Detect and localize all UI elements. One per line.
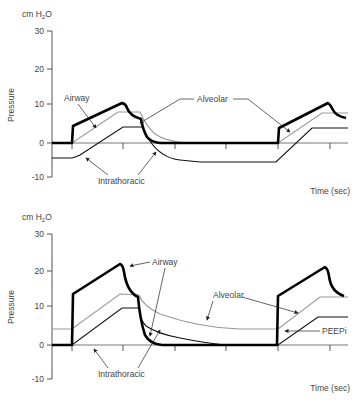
bottom-tick-neg10: -10 [32, 374, 45, 384]
top-label-airway: Airway [64, 93, 90, 103]
top-unit-label: cm H2O [22, 9, 52, 20]
bottom-x-axis-label: Time (sec) [310, 383, 350, 393]
bottom-label-peepi: PEEPi [322, 326, 347, 336]
bottom-label-intrathoracic: Intrathoracic [98, 369, 146, 379]
bottom-tick-20: 20 [35, 266, 45, 276]
top-chart: cm H2O Pressure 30 20 10 0 -10 Time (sec… [6, 9, 350, 196]
chart-canvas: cm H2O Pressure 30 20 10 0 -10 Time (sec… [0, 0, 360, 402]
bottom-unit-label: cm H2O [22, 212, 52, 223]
top-tick-20: 20 [35, 64, 45, 74]
bottom-airway-line [52, 264, 344, 345]
top-tick-neg10: -10 [32, 172, 45, 182]
bottom-tick-0: 0 [39, 340, 44, 350]
top-tick-30: 30 [35, 26, 45, 36]
top-x-axis-label: Time (sec) [310, 186, 350, 196]
top-tick-0: 0 [39, 138, 44, 148]
bottom-chart: cm H2O Pressure 30 20 10 0 -10 Time (sec… [6, 212, 350, 393]
bottom-label-alveolar: Alveolar [213, 290, 244, 300]
top-tick-10: 10 [35, 99, 45, 109]
top-y-axis-label: Pressure [6, 88, 16, 122]
top-label-intrathoracic: Intrathoracic [98, 176, 146, 186]
bottom-label-airway: Airway [152, 257, 178, 267]
top-label-alveolar: Alveolar [197, 94, 228, 104]
bottom-alveolar-line [52, 294, 348, 329]
bottom-y-axis-label: Pressure [6, 290, 16, 324]
bottom-intrathoracic-line [52, 308, 348, 345]
bottom-tick-30: 30 [35, 229, 45, 239]
bottom-tick-10: 10 [35, 301, 45, 311]
top-intrathoracic-line [52, 127, 348, 162]
